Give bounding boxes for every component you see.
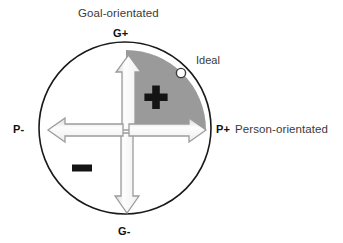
diagram-canvas: Goal-orientated G+ G- P- P+ Person-orien… [0,0,343,243]
ideal-quadrant-wedge [126,50,206,130]
arrow-down-goal-negative [115,133,139,213]
pole-label-p-plus: P+ [216,124,230,135]
pole-label-g-minus: G- [118,226,131,237]
quadrant-circle-graphic [0,0,343,243]
pole-label-g-plus: G+ [113,28,128,39]
ideal-annotation-label: Ideal [196,55,220,66]
minus-marker [72,165,92,172]
ideal-point-marker [176,68,185,77]
arrow-left-person-negative [48,118,123,142]
pole-label-p-minus: P- [13,124,24,135]
horizontal-axis-title: Person-orientated [235,124,328,136]
vertical-axis-title: Goal-orientated [78,8,159,20]
